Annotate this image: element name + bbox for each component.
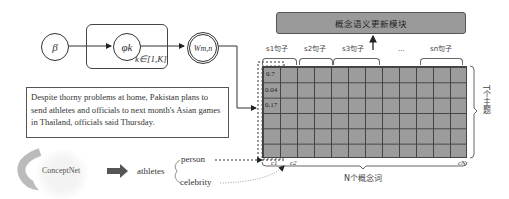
cell-value-1: 0.7 bbox=[266, 70, 275, 78]
beta-label: β bbox=[52, 41, 57, 53]
row-axis-label: T个主题 bbox=[480, 85, 491, 114]
column-label-c2: c2 bbox=[290, 159, 297, 167]
column-label-cN: cN bbox=[458, 159, 466, 167]
cell-value-2: 0.04 bbox=[265, 86, 277, 94]
column-label-c1: c1 bbox=[271, 159, 278, 167]
brace-sn bbox=[420, 58, 463, 65]
cell-value-3: 0.17 bbox=[265, 101, 277, 109]
update-module-label: 概念语义更新模块 bbox=[335, 17, 407, 29]
concept-person: person bbox=[181, 154, 205, 164]
beta-node: β bbox=[41, 33, 69, 61]
brace-s2 bbox=[299, 58, 333, 65]
sentence-label-s2: s2句子 bbox=[304, 43, 326, 53]
mapped-word: athletes bbox=[137, 166, 165, 176]
brace-s1 bbox=[262, 58, 297, 65]
conceptnet-label: ConceptNet bbox=[42, 166, 80, 175]
phi-node: φk bbox=[113, 33, 141, 61]
ellipsis: ... bbox=[398, 45, 405, 53]
sentence-textbox: Despite thorny problems at home, Pakista… bbox=[26, 87, 229, 138]
sentence-label-s3: s3句子 bbox=[342, 43, 364, 53]
w-label: Wm,n bbox=[194, 44, 212, 53]
phi-label: φk bbox=[122, 41, 133, 53]
plate-label: k∈[1,K] bbox=[135, 54, 167, 64]
sentence-label-sn: sn句子 bbox=[430, 43, 452, 53]
col-axis-label: N个概念词 bbox=[344, 172, 382, 183]
concept-celebrity: celebrity bbox=[180, 177, 211, 187]
sentence-label-s1: s1句子 bbox=[266, 43, 288, 53]
w-node: Wm,n bbox=[187, 32, 219, 64]
brace-s3 bbox=[333, 58, 380, 65]
concept-semantic-update-module: 概念语义更新模块 bbox=[276, 12, 466, 34]
topic-concept-matrix bbox=[262, 66, 467, 158]
